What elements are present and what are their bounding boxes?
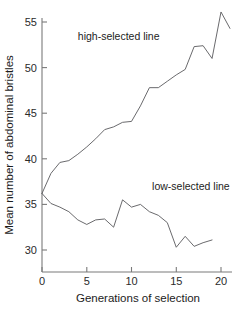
line-chart-plot: 55 50 45 40 35 30 0 5 10 15 20 Generatio… (0, 0, 238, 309)
high-selected-line-label: high-selected line (78, 30, 160, 42)
x-tick-label-5: 5 (84, 275, 90, 287)
x-axis-ticks (42, 267, 221, 272)
low-selected-line-label: low-selected line (152, 180, 230, 192)
x-tick-label-0: 0 (39, 275, 45, 287)
y-tick-label-50: 50 (25, 62, 37, 74)
y-tick-label-55: 55 (25, 16, 37, 28)
y-tick-label-30: 30 (25, 244, 37, 256)
x-tick-label-15: 15 (170, 275, 182, 287)
low-selected-line-path (42, 193, 212, 247)
bristle-selection-chart-figure: 55 50 45 40 35 30 0 5 10 15 20 Generatio… (0, 0, 238, 309)
y-axis-title: Mean number of abdominal bristles (3, 55, 15, 235)
y-axis-ticks (42, 22, 47, 250)
y-tick-label-35: 35 (25, 198, 37, 210)
x-tick-label-20: 20 (215, 275, 227, 287)
y-tick-label-40: 40 (25, 153, 37, 165)
x-axis-title: Generations of selection (76, 292, 200, 304)
x-tick-label-10: 10 (125, 275, 137, 287)
y-tick-label-45: 45 (25, 107, 37, 119)
